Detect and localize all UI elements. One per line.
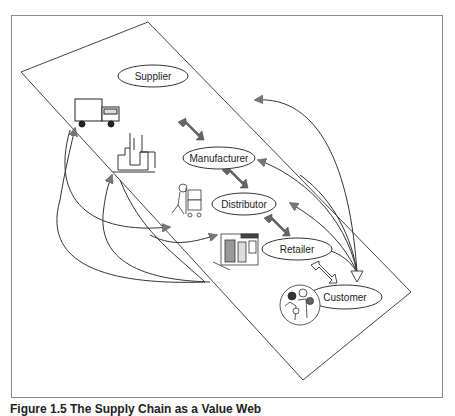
arc-truck-to-distributor: [65, 130, 170, 228]
figure-caption: Figure 1.5 The Supply Chain as a Value W…: [10, 402, 261, 416]
distributor-label: Distributor: [221, 199, 267, 210]
node-distributor: Distributor: [212, 193, 276, 215]
node-supplier: Supplier: [118, 65, 188, 87]
storefront-icon: [213, 234, 258, 270]
factory-icon: [113, 133, 155, 172]
retailer-customer-arrow: [311, 261, 337, 283]
manufacturer-label: Manufacturer: [190, 153, 250, 164]
node-retailer: Retailer: [262, 238, 332, 260]
retailer-label: Retailer: [280, 244, 315, 255]
distributor-retailer-arrow: [264, 214, 290, 236]
truck-icon: [75, 99, 119, 127]
people-group-icon: [280, 285, 320, 325]
arc-customer-distributor: [290, 203, 357, 272]
customer-label: Customer: [323, 292, 367, 303]
node-manufacturer: Manufacturer: [183, 147, 255, 169]
supplier-manufacturer-arrow: [178, 118, 204, 140]
supplier-label: Supplier: [135, 71, 172, 82]
customer-pointer-icon: [351, 271, 363, 282]
delivery-worker-icon: [172, 184, 201, 217]
arc-to-truck: [57, 128, 205, 282]
